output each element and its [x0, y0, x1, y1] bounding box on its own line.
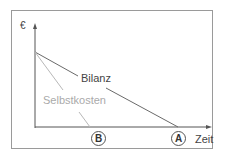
series-label-bilanz: Bilanz: [81, 72, 111, 84]
x-axis-arrow: [206, 125, 212, 129]
series-label-selbstkosten: Selbstkosten: [43, 94, 106, 106]
marker-a: A: [171, 131, 186, 146]
selbstkosten-line-2: [79, 112, 90, 127]
bilanz-line-1: [35, 52, 78, 76]
y-axis-arrow: [33, 23, 37, 29]
selbstkosten-line-1: [35, 52, 63, 90]
marker-b: B: [91, 131, 106, 146]
x-axis-label: Zeit: [195, 133, 213, 145]
y-axis-label: €: [20, 20, 26, 31]
bilanz-line-2: [106, 88, 178, 127]
